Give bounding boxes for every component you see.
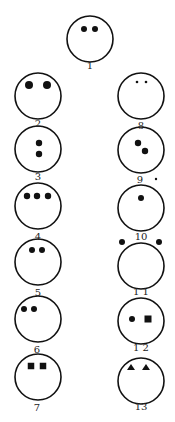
dot-mark [156, 239, 162, 245]
figure-6 [15, 296, 61, 342]
square-mark [40, 363, 47, 370]
dot-mark [145, 81, 148, 84]
circle-outline [118, 298, 164, 344]
dot-mark [24, 193, 30, 199]
figure-label: 2 [35, 118, 41, 129]
circle-outline [118, 243, 164, 289]
dot-mark [81, 26, 87, 32]
dot-mark [135, 140, 141, 146]
figure-7 [15, 354, 61, 400]
triangle-mark [142, 364, 150, 370]
figure-11 [118, 239, 164, 289]
figure-10 [118, 185, 164, 231]
circle-outline [118, 127, 164, 173]
figure-label: 1 1 [133, 286, 149, 297]
figure-label: 10 [135, 231, 148, 242]
dot-mark [138, 195, 144, 201]
figure-label: 6 [34, 344, 40, 355]
dot-mark [34, 193, 40, 199]
circle-outline [15, 296, 61, 342]
figure-2 [15, 73, 61, 119]
figure-label: 1 [87, 60, 93, 71]
figure-label: 4 [35, 231, 41, 242]
dot-mark [142, 148, 148, 154]
figure-label: 7 [34, 402, 40, 413]
dot-mark [39, 247, 45, 253]
circle-outline [15, 183, 61, 229]
figure-8 [118, 73, 164, 119]
figure-4 [15, 183, 61, 229]
circle-outline [15, 239, 61, 285]
figure-13 [118, 358, 164, 404]
circle-outline [118, 185, 164, 231]
circle-outline [15, 126, 61, 172]
circle-figure-diagram: 123456789101 11 213 [0, 0, 175, 422]
square-mark [28, 363, 35, 370]
dot-mark [29, 247, 35, 253]
figure-9 [118, 127, 164, 173]
figure-label: 3 [35, 171, 41, 182]
dot-mark [43, 81, 51, 89]
square-mark [145, 316, 152, 323]
figure-label: 9 [137, 174, 143, 185]
figure-label: 8 [138, 120, 144, 131]
figure-label: 1 2 [133, 342, 149, 353]
dot-mark [136, 81, 139, 84]
figure-5 [15, 239, 61, 285]
circle-outline [67, 16, 113, 62]
dot-mark [25, 81, 33, 89]
dot-mark [129, 316, 135, 322]
figure-12 [118, 298, 164, 344]
figure-3 [15, 126, 61, 172]
figure-label: 5 [35, 287, 41, 298]
circle-outline [15, 73, 61, 119]
figure-label: 13 [135, 401, 148, 412]
dot-mark [21, 306, 27, 312]
dot-mark [31, 306, 37, 312]
dot-mark [45, 193, 51, 199]
figure-1 [67, 16, 113, 62]
dot-mark [92, 26, 98, 32]
circle-outline [118, 358, 164, 404]
dot-mark [36, 140, 42, 146]
dot-mark [119, 239, 125, 245]
circle-outline [118, 73, 164, 119]
triangle-mark [127, 364, 135, 370]
circle-outline [15, 354, 61, 400]
dot-mark [155, 178, 157, 180]
dot-mark [36, 151, 42, 157]
